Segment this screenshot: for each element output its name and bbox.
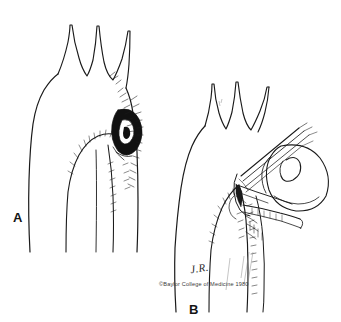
aorta-descending-outer-wall-b [256, 196, 264, 312]
surgical-clamp-icon [229, 123, 317, 229]
stray-pen-marks [219, 99, 222, 106]
aorta-lumen-midline [96, 150, 97, 252]
panel-label-b: B [189, 303, 198, 316]
panel-a-group [29, 25, 143, 252]
medical-illustration-figure: A B J.R. ©Baylor College of Medicine 198… [0, 0, 341, 322]
arch-inner-hatching [68, 130, 112, 174]
aorta-descending-inner-wall [108, 145, 114, 252]
aortic-arch-outer-contour-b [205, 82, 269, 130]
aorta-left-outer-wall [29, 74, 58, 252]
panel-b-group [175, 82, 329, 312]
aortotomy-flap-hatching [250, 222, 262, 240]
aorta-arch-to-descending-b [258, 87, 269, 132]
artist-signature: J.R. [189, 261, 209, 275]
copyright-credit: ©Baylor College of Medicine 1980 [159, 281, 248, 287]
aortic-arch-inner-curve-b [209, 185, 239, 312]
aortic-arch-outer-contour [58, 25, 130, 88]
suture-tie-lines-b [246, 216, 258, 239]
illustration-canvas [0, 0, 341, 322]
panel-label-a: A [13, 211, 22, 224]
graft-sac-icon [262, 145, 329, 211]
